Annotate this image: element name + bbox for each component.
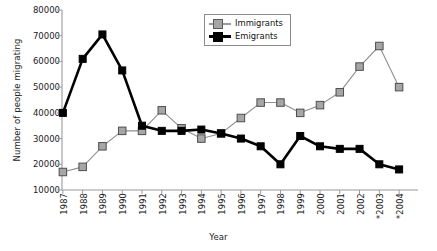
data-point xyxy=(198,126,205,133)
data-point xyxy=(257,143,264,150)
data-point xyxy=(237,135,244,142)
legend-label-immigrants: Immigrants xyxy=(235,19,283,27)
data-point xyxy=(297,133,304,140)
legend-item-immigrants[interactable]: Immigrants xyxy=(209,18,283,29)
data-point xyxy=(336,145,343,152)
y-tick-label: 40000 xyxy=(12,108,60,118)
data-point xyxy=(79,163,87,171)
data-point xyxy=(317,143,324,150)
x-tick-label: 1990 xyxy=(118,193,128,215)
legend-swatch-immigrants xyxy=(209,23,231,25)
data-point xyxy=(356,63,364,71)
x-tick-label: 1999 xyxy=(296,193,306,215)
x-tick-label: 1994 xyxy=(197,193,207,215)
x-tick-label: 1991 xyxy=(138,193,148,215)
data-point xyxy=(79,55,86,62)
x-tick-label: 1988 xyxy=(79,193,89,215)
data-point xyxy=(119,67,126,74)
x-tick-label: *2003 xyxy=(375,193,385,219)
data-point xyxy=(376,161,383,168)
data-point xyxy=(118,127,126,135)
data-point xyxy=(178,127,185,134)
y-tick-label: 60000 xyxy=(12,56,60,66)
data-point xyxy=(277,99,285,107)
x-tick-label: 2001 xyxy=(336,193,346,215)
data-point xyxy=(376,42,384,50)
x-tick-label: 1996 xyxy=(237,193,247,215)
x-tick-label: 1998 xyxy=(276,193,286,215)
data-point xyxy=(395,83,403,91)
x-tick-label: 1997 xyxy=(257,193,267,215)
series-line xyxy=(63,46,399,172)
series-immigrants xyxy=(59,42,403,176)
data-point xyxy=(158,127,165,134)
series-line xyxy=(63,34,399,169)
x-tick-label: 1995 xyxy=(217,193,227,215)
x-tick-label: 1992 xyxy=(158,193,168,215)
data-point xyxy=(257,99,265,107)
legend-label-emigrants: Emigrants xyxy=(235,32,278,40)
y-tick-label: 30000 xyxy=(12,134,60,144)
data-point xyxy=(336,89,344,97)
data-point xyxy=(396,166,403,173)
data-point xyxy=(198,135,206,143)
data-point xyxy=(356,145,363,152)
data-point xyxy=(237,114,245,122)
data-point xyxy=(277,161,284,168)
data-point xyxy=(139,122,146,129)
data-point xyxy=(59,109,66,116)
data-point xyxy=(59,168,67,176)
x-tick-label: 2002 xyxy=(356,193,366,215)
data-point xyxy=(99,143,107,151)
chart-figure: Number of people migrating 1000020000300… xyxy=(0,0,437,251)
x-tick-label: 1993 xyxy=(178,193,188,215)
y-tick-label: 50000 xyxy=(12,82,60,92)
x-axis-title: Year xyxy=(0,232,437,242)
x-tick-label: 1987 xyxy=(59,193,69,215)
legend-item-emigrants[interactable]: Emigrants xyxy=(209,31,283,42)
x-tick-label: *2004 xyxy=(395,193,405,219)
legend-swatch-emigrants xyxy=(209,35,231,38)
data-point xyxy=(218,130,225,137)
y-tick-label: 20000 xyxy=(12,159,60,169)
data-point xyxy=(296,109,304,117)
chart-legend: Immigrants Emigrants xyxy=(204,14,291,46)
data-point xyxy=(158,107,166,115)
y-tick-label: 70000 xyxy=(12,31,60,41)
data-point xyxy=(316,101,324,109)
data-point xyxy=(99,31,106,38)
series-emigrants xyxy=(59,31,402,173)
x-tick-label: 1989 xyxy=(98,193,108,215)
y-tick-label: 80000 xyxy=(12,5,60,15)
x-tick-label: 2000 xyxy=(316,193,326,215)
x-axis-tick-labels: 1987198819891990199119921993199419951996… xyxy=(0,193,437,233)
